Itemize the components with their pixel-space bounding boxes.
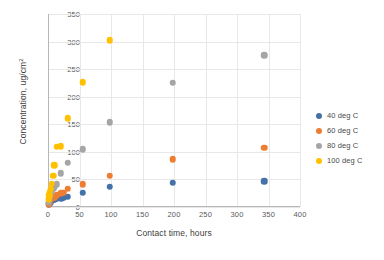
legend-swatch-icon: [316, 158, 322, 164]
gridline-vertical: [174, 14, 175, 207]
legend-item[interactable]: 40 deg C: [316, 108, 363, 123]
data-point: [106, 183, 113, 190]
legend-item-label: 40 deg C: [327, 111, 358, 120]
data-point: [169, 156, 176, 163]
gridline-horizontal: [48, 124, 300, 125]
legend: 40 deg C60 deg C80 deg C100 deg C: [316, 108, 363, 168]
legend-item-label: 100 deg C: [327, 156, 363, 165]
gridline-horizontal: [48, 152, 300, 153]
data-point: [64, 115, 71, 122]
data-point: [57, 170, 64, 177]
legend-item-label: 60 deg C: [327, 126, 358, 135]
x-axis-tick-label: 100: [105, 210, 118, 219]
data-point: [50, 172, 57, 179]
data-point: [64, 186, 71, 193]
data-point: [64, 160, 71, 167]
data-point: [261, 145, 268, 152]
legend-swatch-icon: [316, 128, 322, 134]
x-axis-tick-label: 400: [294, 210, 307, 219]
data-point: [57, 143, 64, 150]
x-axis-title: Contact time, hours: [48, 228, 300, 238]
data-point: [51, 162, 58, 169]
legend-swatch-icon: [316, 143, 322, 149]
legend-item-label: 80 deg C: [327, 141, 358, 150]
data-point: [79, 181, 86, 188]
gridline-horizontal: [48, 69, 300, 70]
x-axis-tick-label: 300: [231, 210, 244, 219]
data-point: [261, 52, 268, 59]
gridline-vertical: [80, 14, 81, 207]
gridline-vertical: [237, 14, 238, 207]
data-point: [169, 80, 176, 87]
gridline-horizontal: [48, 97, 300, 98]
data-point: [79, 189, 86, 196]
data-point: [261, 178, 268, 185]
gridline-horizontal: [48, 14, 300, 15]
x-axis-line: [48, 206, 300, 207]
data-point: [106, 119, 113, 126]
plot-area: [48, 14, 300, 207]
data-point: [79, 146, 86, 153]
scatter-chart: 050100150200250300350 050100150200250300…: [0, 0, 384, 260]
legend-swatch-icon: [316, 113, 322, 119]
data-point: [106, 172, 113, 179]
legend-item[interactable]: 80 deg C: [316, 138, 363, 153]
data-point: [106, 37, 113, 44]
gridline-vertical: [300, 14, 301, 207]
x-axis-tick-label: 250: [199, 210, 212, 219]
gridline-vertical: [269, 14, 270, 207]
x-axis-tick-label: 0: [46, 210, 50, 219]
gridline-vertical: [143, 14, 144, 207]
gridline-horizontal: [48, 207, 300, 208]
gridline-vertical: [206, 14, 207, 207]
y-axis-line: [48, 14, 49, 207]
y-axis-title-text: Concentration, ug/cm: [18, 62, 28, 145]
x-axis-tick-label: 150: [136, 210, 149, 219]
data-point: [79, 79, 86, 86]
gridline-horizontal: [48, 42, 300, 43]
x-axis-tick-label: 50: [75, 210, 84, 219]
data-point: [49, 181, 56, 188]
x-axis-tick-label: 350: [262, 210, 275, 219]
data-point: [169, 179, 176, 186]
x-axis-tick-label: 200: [168, 210, 181, 219]
legend-item[interactable]: 100 deg C: [316, 153, 363, 168]
y-axis-title: Concentration, ug/cm2: [18, 6, 29, 196]
legend-item[interactable]: 60 deg C: [316, 123, 363, 138]
y-axis-title-exponent: 2: [18, 58, 24, 61]
